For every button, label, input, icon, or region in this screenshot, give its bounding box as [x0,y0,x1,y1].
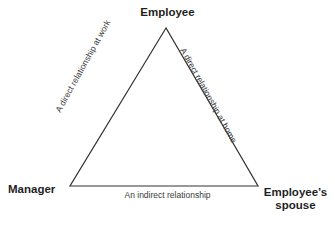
diagram-canvas: Employee Manager Employee’s spouse A dir… [0,0,335,225]
triangle-outline [70,28,258,186]
vertex-label-employee: Employee [0,6,335,19]
edge-label-manager-spouse: An indirect relationship [0,190,335,200]
